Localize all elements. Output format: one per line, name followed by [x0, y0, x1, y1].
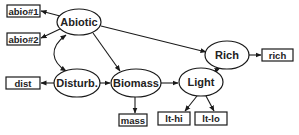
- node-rich-manifest-label: rich: [269, 50, 287, 61]
- node-abio1: abio#1: [7, 5, 40, 17]
- node-abio1-label: abio#1: [8, 6, 39, 17]
- node-biomass-label: Biomass: [113, 77, 159, 89]
- edge-abiotic-rich: [101, 26, 206, 52]
- node-lthi: lt-hi: [158, 112, 190, 125]
- node-dist-label: dist: [15, 78, 33, 89]
- node-light: Light: [179, 68, 223, 96]
- node-ltlo-label: lt-lo: [202, 113, 220, 124]
- edge-abiotic-abio1: [41, 11, 60, 16]
- node-lthi-label: lt-hi: [165, 113, 182, 124]
- node-light-label: Light: [188, 76, 215, 88]
- edge-light-ltlo: [206, 96, 214, 111]
- node-mass-label: mass: [121, 115, 145, 126]
- node-abiotic: Abiotic: [57, 9, 101, 35]
- node-mass: mass: [119, 114, 147, 126]
- node-dist: dist: [6, 77, 40, 89]
- edge-abiotic-abio2: [41, 29, 60, 38]
- node-disturb: Disturb.: [54, 69, 100, 97]
- node-rich: Rich: [205, 41, 249, 69]
- node-abio2-label: abio#2: [8, 34, 38, 45]
- node-biomass: Biomass: [111, 69, 161, 97]
- node-rich-label: Rich: [215, 49, 239, 61]
- edge-abiotic-biomass: [93, 33, 120, 71]
- node-ltlo: lt-lo: [195, 112, 227, 125]
- edge-abiotic-disturb-correlation: [54, 35, 66, 71]
- edge-light-lthi: [185, 96, 197, 111]
- node-disturb-label: Disturb.: [56, 77, 98, 89]
- node-rich-manifest: rich: [262, 49, 293, 61]
- sem-diagram: Abiotic Disturb. Biomass Light Rich abio…: [0, 0, 299, 135]
- node-abio2: abio#2: [7, 33, 40, 45]
- node-abiotic-label: Abiotic: [60, 16, 97, 28]
